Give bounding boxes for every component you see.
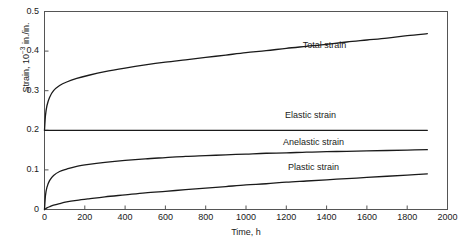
curve-total-strain (45, 34, 428, 131)
plot-area: Total strainElastic strainAnelastic stra… (0, 0, 470, 247)
curve-label-total-strain: Total strain (303, 40, 347, 50)
curve-plastic-strain (45, 174, 428, 210)
plot-frame (45, 12, 448, 210)
axis-tick-marks (45, 12, 448, 210)
curve-anelastic-strain (45, 150, 428, 210)
curve-label-plastic-strain: Plastic strain (288, 162, 339, 172)
data-curves (45, 34, 428, 210)
creep-strain-chart-figure: Strain, 10−3 in./in. 00.10.20.30.40.5 02… (0, 0, 470, 247)
curve-label-anelastic-strain: Anelastic strain (283, 137, 344, 147)
curve-label-elastic-strain: Elastic strain (285, 110, 336, 120)
